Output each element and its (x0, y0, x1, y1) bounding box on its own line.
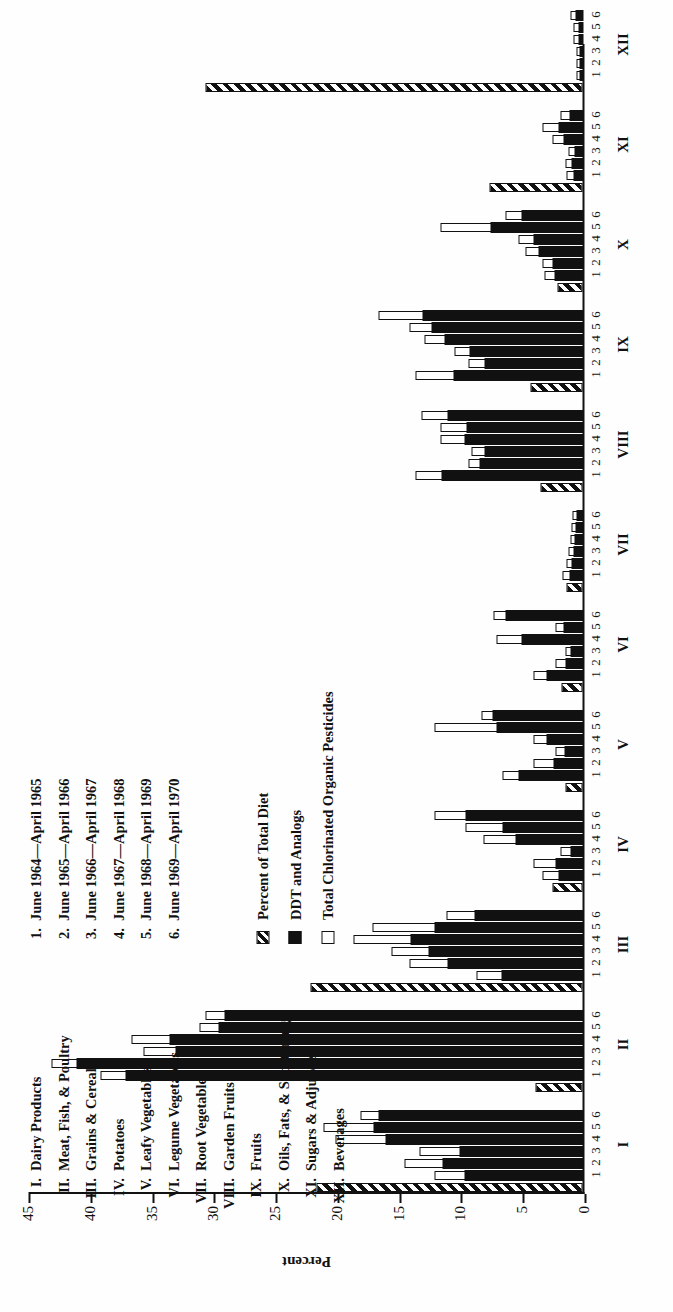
period-legend-list: 1.June 1964—April 19652.June 1965—April … (22, 778, 187, 944)
period-tick-number: 6 (588, 9, 601, 21)
bar-total-chlorinated (419, 1147, 582, 1156)
period-legend-text: June 1964—April 1965 (22, 778, 50, 921)
bar-ddt-and-analogs (459, 1146, 583, 1156)
category-legend-item: II.Meat, Fish, & Poultry (50, 1021, 78, 1212)
category-legend-numeral: XI. (297, 1171, 325, 1212)
bar-ddt-and-analogs (505, 610, 583, 620)
period-tick-number: 3 (588, 1045, 601, 1057)
bar-ddt-and-analogs (573, 546, 583, 556)
bar-total-chlorinated (372, 923, 582, 932)
bar-ddt-and-analogs (552, 258, 583, 268)
value-axis-tick (584, 1194, 586, 1203)
bar-total-chlorinated (566, 559, 582, 568)
category-tick-xii: 123456XII (588, 8, 631, 92)
value-axis-tick-label: 10 (453, 1206, 468, 1242)
period-tick-number: 3 (588, 845, 601, 857)
bar-ddt-and-analogs (422, 310, 583, 320)
bars (28, 508, 582, 592)
period-tick-number: 6 (588, 609, 601, 621)
bar-total-chlorinated (566, 171, 582, 180)
category-tick-xi: 123456XI (588, 108, 631, 192)
period-tick-number: 5 (588, 1021, 601, 1033)
category-legend-item: VI.Legume Vegetables (160, 1021, 188, 1212)
category-legend-name: Potatoes (105, 1119, 133, 1171)
bar-total-chlorinated (560, 847, 582, 856)
bar-total-chlorinated (560, 111, 582, 120)
bar-total-chlorinated (555, 659, 582, 668)
bar-ddt-and-analogs (579, 58, 583, 68)
bar-total-chlorinated (421, 411, 582, 420)
bar-total-chlorinated (568, 147, 582, 156)
bar-total-chlorinated (525, 247, 582, 256)
bar-total-chlorinated (471, 447, 582, 456)
period-tick-number: 3 (588, 145, 601, 157)
legend-swatch-ddt-and-analogs-icon (288, 931, 301, 944)
bar-total-chlorinated (454, 347, 582, 356)
category-legend-numeral: XII. (325, 1171, 353, 1212)
period-tick-number: 6 (588, 409, 601, 421)
period-tick-number: 4 (588, 633, 601, 645)
bar-percent-of-total-diet (552, 883, 582, 892)
bar-ddt-and-analogs (570, 646, 582, 656)
period-legend-number: 2. (50, 921, 78, 944)
category-legend-name: Root Vegetables (187, 1072, 215, 1171)
bar-ddt-and-analogs (570, 846, 582, 856)
category-legend-name: Legume Vegetables (160, 1052, 188, 1171)
bar-percent-of-total-diet (561, 683, 582, 692)
series-legend-item: DDT and Analogs (279, 691, 312, 944)
period-tick-number: 2 (588, 957, 601, 969)
category-roman-numeral: III (614, 936, 631, 954)
bars (28, 308, 582, 392)
bar-total-chlorinated (502, 771, 582, 780)
bar-percent-of-total-diet (316, 1183, 582, 1192)
series-legend-item: Percent of Total Diet (246, 691, 279, 944)
period-tick-number: 2 (588, 357, 601, 369)
bar-ddt-and-analogs (479, 458, 583, 468)
bar-percent-of-total-diet (489, 183, 582, 192)
period-tick-number: 1 (588, 569, 601, 581)
period-tick-number: 2 (588, 457, 601, 469)
category-legend-item: I.Dairy Products (22, 1021, 50, 1212)
bar-ddt-and-analogs (385, 1134, 583, 1144)
value-axis-tick (399, 1194, 401, 1203)
period-tick-number: 4 (588, 133, 601, 145)
period-tick-numbers: 123456 (588, 609, 601, 681)
category-legend-item: VII.Root Vegetables (187, 1021, 215, 1212)
period-tick-number: 4 (588, 733, 601, 745)
bars (28, 408, 582, 492)
category-legend-item: III.Grains & Cereal (77, 1021, 105, 1212)
bar-ddt-and-analogs (521, 210, 583, 220)
bar-ddt-and-analogs (441, 470, 583, 480)
bar-total-chlorinated (570, 535, 582, 544)
bar-ddt-and-analogs (465, 810, 582, 820)
bar-total-chlorinated (568, 547, 582, 556)
period-tick-number: 1 (588, 769, 601, 781)
bar-ddt-and-analogs (576, 510, 582, 520)
bar-total-chlorinated (465, 823, 582, 832)
bar-total-chlorinated (481, 711, 582, 720)
bar-group-vi (28, 608, 582, 692)
bar-total-chlorinated (576, 59, 582, 68)
period-legend-number: 1. (22, 921, 50, 944)
period-tick-number: 2 (588, 157, 601, 169)
bar-ddt-and-analogs (447, 958, 583, 968)
period-tick-number: 3 (588, 1145, 601, 1157)
bar-group-viii (28, 408, 582, 492)
bar-ddt-and-analogs (484, 358, 583, 368)
bar-ddt-and-analogs (464, 434, 583, 444)
bar-total-chlorinated (415, 371, 582, 380)
bar-ddt-and-analogs (571, 158, 582, 168)
category-legend-name: Oils, Fats, & Shortening (270, 1021, 298, 1171)
bar-percent-of-total-diet (310, 983, 582, 992)
series-legend-label: Percent of Total Diet (246, 793, 279, 920)
value-axis-tick-label: 5 (515, 1206, 530, 1242)
period-tick-number: 5 (588, 21, 601, 33)
bar-ddt-and-analogs (501, 970, 583, 980)
category-legend-item: XII.Beverages (325, 1021, 353, 1212)
series-legend-label: Total Chlorinated Organic Pesticides (311, 691, 344, 920)
bar-ddt-and-analogs (579, 70, 583, 80)
bar-ddt-and-analogs (474, 910, 583, 920)
bar-ddt-and-analogs (564, 746, 583, 756)
period-legend-text: June 1966—April 1967 (77, 778, 105, 921)
bar-total-chlorinated (533, 759, 582, 768)
